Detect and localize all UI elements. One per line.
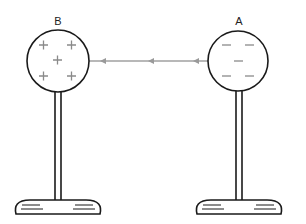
field-line: [89, 58, 208, 64]
sphere-a-label: A: [235, 15, 243, 27]
sphere-a-stem: [236, 91, 242, 200]
arrowhead-icon: [148, 58, 154, 64]
sphere-b-label: B: [54, 15, 61, 27]
sphere-b-stem: [55, 92, 61, 200]
arrowhead-icon: [193, 58, 199, 64]
sphere-a: A: [196, 15, 281, 214]
arrowhead-icon: [100, 58, 106, 64]
sphere-b-base: [15, 200, 100, 214]
electroscope-diagram: B A: [0, 0, 306, 224]
sphere-b: B: [15, 15, 100, 214]
sphere-a-base: [196, 200, 281, 214]
